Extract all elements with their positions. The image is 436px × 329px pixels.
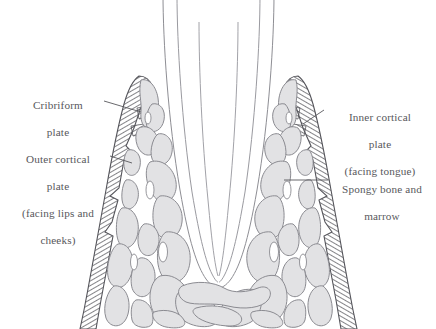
label-outer-line2: plate bbox=[6, 180, 110, 193]
figure-caption bbox=[10, 320, 430, 329]
label-spongy-line1: Spongy bone and bbox=[330, 183, 434, 196]
label-cribriform-line2: plate bbox=[12, 126, 104, 139]
label-outer-line4: cheeks) bbox=[6, 234, 110, 247]
label-outer-cortical-plate: Outer cortical plate (facing lips and ch… bbox=[6, 140, 110, 261]
label-spongy-bone: Spongy bone and marrow bbox=[330, 170, 434, 237]
label-outer-line3: (facing lips and bbox=[6, 207, 110, 220]
label-inner-line1: Inner cortical bbox=[326, 111, 434, 124]
label-outer-line1: Outer cortical bbox=[6, 153, 110, 166]
label-spongy-line2: marrow bbox=[330, 210, 434, 223]
label-cribriform-line1: Cribriform bbox=[12, 99, 104, 112]
label-inner-line2: plate bbox=[326, 138, 434, 151]
